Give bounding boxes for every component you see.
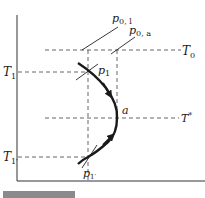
down-arrow-icon [103,83,110,95]
p1-label: p1 [98,64,110,78]
t0-label: T0 [182,44,195,60]
phase-diagram: T0 T1 T* T1′ p0, l p0, a p1 a p1′ [0,0,205,198]
t1-label: T1 [3,65,16,81]
caption-bar [3,191,75,198]
a-label: a [122,104,129,117]
p1-tangent-line [76,64,98,80]
p0l-leader-line [82,27,118,50]
tstar-label: T* [181,111,192,125]
t1prime-label: T1′ [3,150,18,166]
p0a-label: p0, a [129,24,151,38]
p0a-leader-line [111,37,135,54]
p1prime-label: p1′ [83,167,97,181]
